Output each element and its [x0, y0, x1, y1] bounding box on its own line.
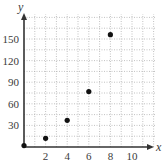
- y-axis-label: y: [17, 0, 24, 14]
- data-point: [108, 32, 113, 37]
- y-tick-label: 60: [8, 98, 20, 110]
- data-point: [65, 118, 70, 123]
- x-tick-label: 2: [43, 150, 49, 162]
- data-point: [43, 136, 48, 141]
- y-tick-label: 120: [3, 55, 20, 67]
- y-tick-label: 30: [8, 119, 20, 131]
- y-tick-label: 150: [3, 33, 20, 45]
- x-tick-label: 6: [86, 150, 92, 162]
- grid-lines: [24, 14, 155, 147]
- x-tick-label: 4: [64, 150, 70, 162]
- data-point: [21, 143, 26, 148]
- scatter-chart: 246810 306090120150 x y: [0, 0, 163, 164]
- y-tick-label: 90: [8, 76, 20, 88]
- x-axis-label: x: [155, 140, 162, 154]
- y-tick-labels: 306090120150: [3, 33, 20, 131]
- data-point: [86, 89, 91, 94]
- y-axis-arrow-icon: [21, 13, 27, 20]
- x-axis-arrow-icon: [147, 144, 154, 150]
- x-tick-labels: 246810: [43, 150, 138, 162]
- axes: [21, 13, 154, 150]
- x-tick-label: 10: [127, 150, 139, 162]
- x-tick-label: 8: [108, 150, 114, 162]
